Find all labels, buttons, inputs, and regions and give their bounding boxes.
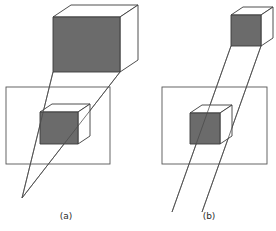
panel-b-object-cube [231,7,273,46]
projected-cube-front-face [40,112,78,144]
panel-a-object-cube [53,5,138,72]
object-cube-right-face [120,5,138,72]
object-cube-front-face [231,15,261,46]
panel-a-ray-overlay [22,72,120,198]
panel-b-projected-cube [190,105,232,144]
panel-a-caption: (a) [60,211,73,221]
figure-root: (a) [0,0,276,231]
panel-a: (a) [6,5,138,221]
projection-diagram: (a) [0,0,276,231]
object-cube-front-face [53,17,120,72]
ray-right-overlay [22,72,120,198]
panel-a-projected-cube [40,104,90,144]
panel-b-caption: (b) [203,211,216,221]
panel-b: (b) [162,7,273,221]
projected-cube-front-face [190,113,220,144]
